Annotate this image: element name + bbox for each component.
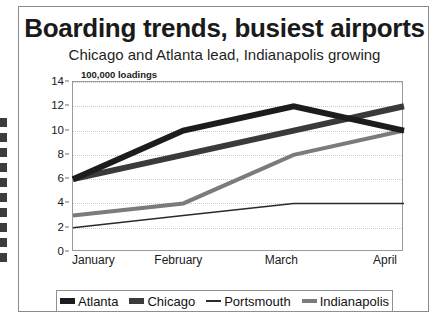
chart-title: Boarding trends, busiest airports — [19, 13, 430, 44]
legend-swatch-icon — [129, 298, 144, 304]
legend-label: Portsmouth — [224, 294, 290, 309]
y-axis-tick-label: 0 — [58, 245, 64, 257]
series-lines — [73, 82, 404, 252]
y-axis-tick-mark — [65, 202, 69, 203]
x-axis: JanuaryFebruaryMarchApril — [72, 253, 403, 273]
y-axis-tick-label: 4 — [58, 196, 64, 208]
y-axis-tick-mark — [65, 226, 69, 227]
legend-label: Indianapolis — [320, 294, 389, 309]
chart-subtitle: Chicago and Atlanta lead, Indianapolis g… — [19, 46, 430, 63]
y-axis-tick-mark — [65, 81, 69, 82]
y-axis: 02468101214 — [19, 81, 69, 251]
x-axis-tick-label: February — [154, 253, 202, 267]
legend-swatch-icon — [206, 300, 221, 302]
legend-label: Chicago — [147, 294, 195, 309]
y-axis-tick-label: 6 — [58, 172, 64, 184]
x-axis-tick-label: April — [373, 253, 397, 267]
y-axis-tick-label: 12 — [51, 99, 64, 111]
legend-item-indianapolis[interactable]: Indianapolis — [302, 294, 389, 309]
legend-item-chicago[interactable]: Chicago — [129, 294, 195, 309]
x-axis-tick-label: January — [72, 253, 115, 267]
legend-swatch-icon — [60, 298, 75, 304]
y-axis-unit-label: 100,000 loadings — [81, 69, 157, 80]
chart-figure: Boarding trends, busiest airports Chicag… — [18, 6, 429, 312]
legend-swatch-icon — [302, 299, 317, 303]
series-line-portsmouth — [73, 203, 404, 227]
legend-item-atlanta[interactable]: Atlanta — [60, 294, 118, 309]
y-axis-tick-mark — [65, 129, 69, 130]
y-axis-tick-label: 14 — [51, 75, 64, 87]
y-axis-tick-mark — [65, 105, 69, 106]
legend-label: Atlanta — [78, 294, 118, 309]
y-axis-tick-mark — [65, 178, 69, 179]
plot-area — [72, 81, 403, 251]
chart-legend: AtlantaChicagoPortsmouthIndianapolis — [56, 290, 393, 312]
y-axis-tick-label: 8 — [58, 148, 64, 160]
scan-edge-artifact — [0, 118, 7, 268]
y-axis-tick-mark — [65, 251, 69, 252]
x-axis-tick-label: March — [265, 253, 298, 267]
legend-item-portsmouth[interactable]: Portsmouth — [206, 294, 290, 309]
y-axis-tick-label: 10 — [51, 124, 64, 136]
y-axis-tick-mark — [65, 153, 69, 154]
y-axis-tick-label: 2 — [58, 221, 64, 233]
